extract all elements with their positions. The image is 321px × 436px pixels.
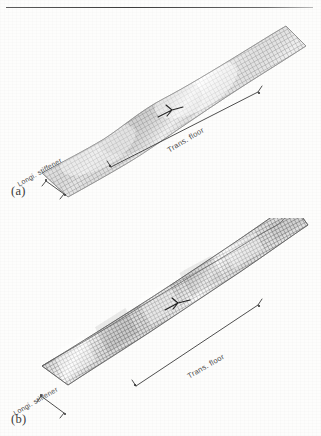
subfigure-label-a: (a) xyxy=(11,184,26,199)
subfigure-b-graphic xyxy=(0,218,321,436)
figure-page: Trans. floor Longi. stiffener Trans. flo… xyxy=(0,0,321,436)
subfigure-a-graphic xyxy=(0,10,321,215)
subfigure-b xyxy=(0,218,321,436)
subfigure-a xyxy=(0,10,321,215)
panel-a-buckle-shading xyxy=(53,50,246,186)
top-horizontal-rule xyxy=(6,7,313,8)
subfigure-label-b: (b) xyxy=(11,412,26,427)
